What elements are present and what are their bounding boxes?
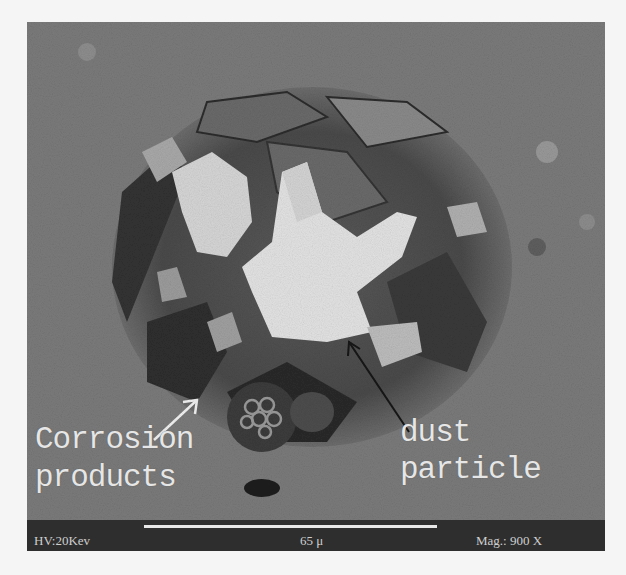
sem-image-area: Corrosion products dust particle xyxy=(27,22,605,520)
annotation-corrosion-products-line2: products xyxy=(35,462,176,493)
page: Corrosion products dust particle HV:20Ke… xyxy=(0,0,626,575)
sem-micrograph: Corrosion products dust particle HV:20Ke… xyxy=(27,22,605,551)
annotation-dust-particle-line1: dust xyxy=(400,417,470,448)
scale-bar xyxy=(144,525,437,528)
annotation-dust-particle-line2: particle xyxy=(400,454,541,485)
magnification: Mag.: 900 X xyxy=(476,533,542,549)
accelerating-voltage: HV:20Kev xyxy=(34,533,90,549)
annotation-corrosion-products-line1: Corrosion xyxy=(35,424,193,455)
sem-info-bar: HV:20Kev 65 μ Mag.: 900 X xyxy=(27,520,605,551)
scale-label: 65 μ xyxy=(300,533,323,549)
